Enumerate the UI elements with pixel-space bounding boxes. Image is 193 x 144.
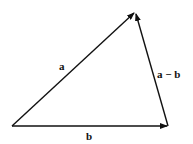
label-a: a xyxy=(59,60,65,72)
vector-diagram: a b a − b xyxy=(0,0,193,144)
vector-a-arrow xyxy=(12,13,134,126)
label-a-minus-b: a − b xyxy=(157,68,180,80)
label-b: b xyxy=(86,130,92,142)
